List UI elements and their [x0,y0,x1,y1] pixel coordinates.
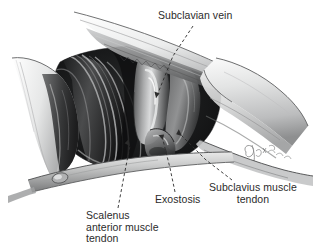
label-subclavian-vein: Subclavian vein [158,10,232,22]
label-scalenus-line-1: Scalenus [86,210,159,222]
artist-signature [245,145,275,161]
label-subclavius-line-1: Subclavius muscle [209,182,297,194]
label-subclavius-line-2: tendon [209,194,297,206]
label-scalenus-line-3: tendon [86,233,159,245]
label-scalenus-anterior-muscle-tendon: Scalenus anterior muscle tendon [86,210,159,245]
label-exostosis: Exostosis [155,194,200,206]
label-subclavian-vein-line-1: Subclavian vein [158,10,232,22]
label-subclavius-muscle-tendon: Subclavius muscle tendon [209,182,297,205]
label-exostosis-line-1: Exostosis [155,194,200,206]
